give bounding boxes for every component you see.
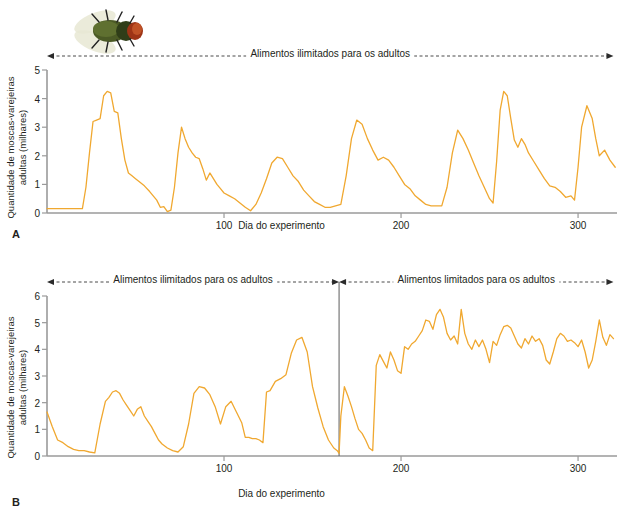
arrow-head-right-icon	[332, 279, 339, 285]
y-tick-label: 0	[18, 208, 40, 219]
panel-a-y-axis-label: Quantidade de moscas-varejeiras adultas …	[5, 68, 28, 228]
arrow-head-right-icon	[606, 279, 613, 285]
y-tick-label: 2	[18, 150, 40, 161]
arrow-head-left-icon	[339, 279, 346, 285]
arrow-head-left-icon	[47, 279, 54, 285]
y-tick-label: 0	[18, 451, 40, 462]
plotA-canvas	[47, 70, 617, 213]
y-tick-label: 4	[18, 93, 40, 104]
panel-b-x-axis-label: Dia do experimento	[0, 488, 598, 499]
food-regime-annotation-label: Alimentos ilimitados para os adultos	[246, 48, 414, 59]
arrow-head-right-icon	[606, 53, 613, 59]
y-tick-label: 6	[18, 291, 40, 302]
y-tick-label: 5	[18, 65, 40, 76]
blowfly-photo	[62, 2, 158, 60]
panel-b-y-axis-label: Quantidade de moscas-varejeiras adultas …	[5, 308, 28, 468]
panel-a-x-axis-label: Dia do experimento	[0, 220, 598, 231]
y-tick-label: 5	[18, 317, 40, 328]
x-tick-label: 200	[381, 463, 421, 474]
x-tick-label: 300	[558, 220, 598, 231]
x-tick-label: 200	[381, 220, 421, 231]
arrow-head-left-icon	[47, 53, 54, 59]
y-tick-label: 1	[18, 179, 40, 190]
plotB-canvas	[47, 296, 617, 456]
blowfly-population-figure: A Quantidade de moscas-varejeiras adulta…	[0, 0, 633, 516]
y-tick-label: 1	[18, 424, 40, 435]
data-series-line	[47, 91, 615, 211]
food-regime-annotation-label: Alimentos limitados para os adultos	[394, 274, 559, 285]
panel-b: B Quantidade de moscas-varejeiras adulta…	[0, 278, 633, 516]
panel-a-plot: 012345100200300Alimentos ilimitados para…	[47, 70, 617, 213]
food-regime-annotation-label: Alimentos ilimitados para os adultos	[109, 274, 277, 285]
y-tick-label: 3	[18, 122, 40, 133]
panel-b-plot: 0123456100200300Alimentos ilimitados par…	[47, 296, 617, 456]
data-series-line	[47, 309, 613, 453]
x-tick-label: 100	[204, 463, 244, 474]
x-tick-label: 100	[204, 220, 244, 231]
panel-a: A Quantidade de moscas-varejeiras adulta…	[0, 58, 633, 248]
y-tick-label: 3	[18, 371, 40, 382]
y-tick-label: 2	[18, 397, 40, 408]
x-tick-label: 300	[558, 463, 598, 474]
y-tick-label: 4	[18, 344, 40, 355]
